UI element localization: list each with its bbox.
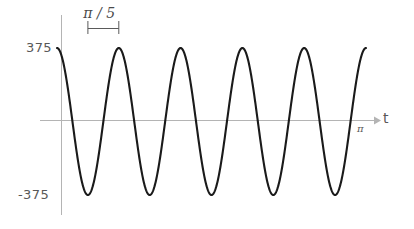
sine-wave-figure: 375 -375 t π π / 5 xyxy=(0,0,414,229)
y-axis-min-label: -375 xyxy=(18,188,49,201)
period-annotation-label: π / 5 xyxy=(83,6,115,20)
x-axis-pi-tick-label: π xyxy=(357,124,364,134)
period-bracket xyxy=(88,21,119,34)
x-axis-arrowhead xyxy=(374,117,381,125)
horizontal-axis xyxy=(40,117,381,125)
x-axis-label: t xyxy=(383,111,389,125)
waveform-curve xyxy=(57,48,366,195)
plot-canvas xyxy=(0,0,414,229)
y-axis-max-label: 375 xyxy=(26,41,52,54)
